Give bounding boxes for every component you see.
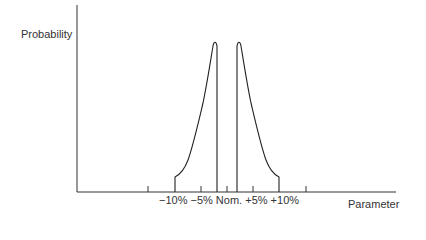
upper-distribution-curve <box>237 42 279 192</box>
lower-distribution-curve <box>175 42 217 192</box>
y-axis-label: Probability <box>21 28 72 40</box>
x-ticks <box>148 186 306 192</box>
x-axis-label: Parameter <box>348 198 399 210</box>
x-tick-labels: −10% −5% Nom. +5% +10% <box>159 194 299 206</box>
